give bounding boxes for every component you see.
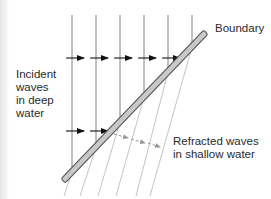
refracted-waves-label: Refracted waves in shallow water: [173, 135, 271, 161]
incident-waves-label: Incident waves in deep water: [16, 68, 76, 120]
boundary-label: Boundary: [215, 22, 264, 35]
refracted-arrows: [114, 134, 160, 147]
